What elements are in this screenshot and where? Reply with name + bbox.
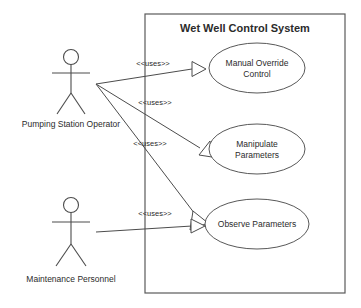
actor-maintenance-personnel[interactable]: Maintenance Personnel — [26, 198, 115, 285]
actor-label: Pumping Station Operator — [22, 119, 120, 129]
use-case-ellipse[interactable] — [209, 124, 305, 174]
stereotype-labels: <<uses>> <<uses>> <<uses>> <<uses>> — [133, 59, 172, 218]
arrowhead-manual-override — [192, 62, 206, 77]
use-case-label-line-2: Control — [243, 69, 271, 79]
use-case-label-line-1: Observe Parameters — [218, 219, 296, 229]
use-case-ellipse[interactable] — [209, 43, 305, 93]
use-case-label-line-1: Manipulate — [236, 139, 278, 149]
actor-leg-left-icon — [56, 244, 71, 266]
use-case-diagram-canvas: Wet Well Control System <<uses>> <<uses>… — [0, 0, 361, 308]
actor-head-icon — [64, 50, 79, 65]
uses-label-manual-override: <<uses>> — [136, 59, 170, 68]
association-lines — [96, 69, 200, 232]
actor-pumping-station-operator[interactable]: Pumping Station Operator — [22, 50, 120, 130]
use-case-observe-parameters[interactable]: Observe Parameters — [205, 199, 309, 249]
actor-label: Maintenance Personnel — [26, 274, 115, 284]
association-line-operator-manual-override[interactable] — [96, 69, 192, 84]
use-case-manual-override-control[interactable]: Manual Override Control — [209, 43, 305, 93]
association-line-maintenance-observe-parameters[interactable] — [96, 226, 192, 232]
use-case-manipulate-parameters[interactable]: Manipulate Parameters — [209, 124, 305, 174]
actor-leg-right-icon — [71, 244, 86, 266]
uses-label-observe-parameters-operator: <<uses>> — [138, 98, 172, 107]
actor-head-icon — [64, 198, 79, 213]
use-case-label-line-2: Parameters — [235, 150, 279, 160]
uses-label-manipulate-parameters: <<uses>> — [133, 139, 167, 148]
use-case-label-line-1: Manual Override — [226, 58, 289, 68]
actor-leg-right-icon — [71, 93, 85, 114]
actor-leg-left-icon — [57, 93, 71, 114]
system-boundary-title: Wet Well Control System — [180, 22, 310, 34]
uses-label-observe-parameters-maintenance: <<uses>> — [138, 209, 172, 218]
